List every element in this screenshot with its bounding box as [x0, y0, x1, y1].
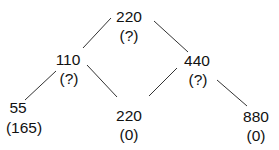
- edge-left-leftleft: [25, 71, 56, 100]
- edge-root-right: [154, 21, 188, 52]
- node-value: 440: [184, 52, 210, 69]
- node-annotation: (?): [120, 27, 139, 44]
- tree-diagram: 220 (?) 110 (?) 440 (?) 55 (165) 220 (0)…: [0, 0, 279, 150]
- edge-right-middle: [149, 68, 177, 96]
- node-annotation: (0): [247, 127, 266, 144]
- node-annotation: (?): [189, 71, 208, 88]
- node-value: 55: [9, 99, 26, 116]
- node-right: 440 (?): [184, 52, 210, 88]
- node-value: 220: [116, 8, 142, 25]
- node-annotation: (0): [120, 126, 139, 143]
- node-left-left: 55 (165): [6, 99, 42, 136]
- node-value: 220: [116, 107, 142, 124]
- edge-root-left: [83, 18, 111, 48]
- node-right-right: 880 (0): [243, 108, 269, 144]
- node-middle: 220 (0): [116, 107, 142, 143]
- node-value: 110: [56, 51, 81, 68]
- node-root: 220 (?): [116, 8, 142, 44]
- edge-right-rightright: [217, 80, 247, 106]
- edge-left-middle: [87, 65, 117, 97]
- node-annotation: (?): [60, 70, 79, 87]
- node-value: 880: [243, 108, 269, 125]
- node-annotation: (165): [6, 119, 42, 136]
- node-left: 110 (?): [56, 51, 81, 87]
